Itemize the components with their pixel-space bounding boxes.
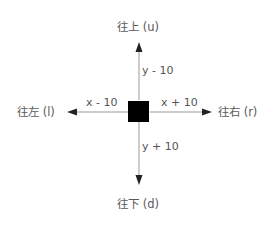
up-arrow-icon bbox=[136, 42, 143, 52]
right-arrow-icon bbox=[202, 109, 212, 116]
down-arrow-icon bbox=[136, 175, 143, 185]
left-arrow-icon bbox=[67, 109, 77, 116]
player-square bbox=[128, 101, 149, 122]
delta-left: x - 10 bbox=[86, 97, 117, 108]
label-up: 往上 (u) bbox=[117, 22, 159, 34]
delta-right: x + 10 bbox=[161, 97, 198, 108]
delta-up: y - 10 bbox=[142, 65, 173, 76]
label-left: 往左 (l) bbox=[17, 107, 55, 119]
delta-down: y + 10 bbox=[142, 141, 179, 152]
label-down: 往下 (d) bbox=[117, 199, 159, 211]
label-right: 往右 (r) bbox=[218, 107, 257, 119]
